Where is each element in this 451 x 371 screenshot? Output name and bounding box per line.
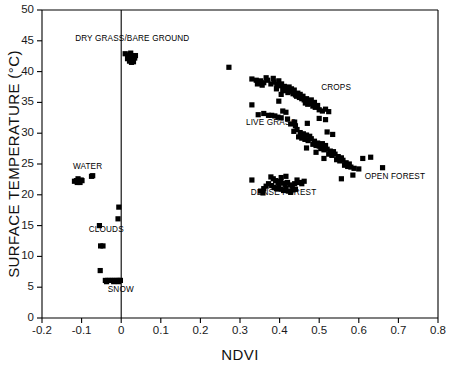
x-tick-label: 0 <box>118 324 124 336</box>
data-point <box>304 145 309 150</box>
data-point <box>325 129 330 134</box>
data-point <box>260 83 265 88</box>
annotation-label: DENSE FOREST <box>251 188 317 197</box>
y-tick-label: 50 <box>21 3 34 15</box>
data-point <box>116 279 121 284</box>
annotation-label: CROPS <box>321 83 351 92</box>
data-point <box>131 59 136 64</box>
data-point <box>279 175 284 180</box>
data-point <box>302 179 307 184</box>
data-point <box>276 99 281 104</box>
y-tick-label: 10 <box>21 249 34 261</box>
y-tick-label: 20 <box>21 188 34 200</box>
data-point <box>98 243 103 248</box>
data-point <box>226 65 231 70</box>
y-tick-label: 45 <box>21 34 34 46</box>
data-point <box>313 150 318 155</box>
data-point <box>280 108 285 113</box>
y-tick-label: 0 <box>28 311 34 323</box>
data-point <box>125 56 130 61</box>
x-tick-label: 0.2 <box>192 324 208 336</box>
data-point <box>356 166 361 171</box>
data-point <box>111 279 116 284</box>
data-point <box>380 165 385 170</box>
y-tick-label: 5 <box>28 280 34 292</box>
data-point <box>309 97 314 102</box>
data-point <box>249 177 254 182</box>
annotation-label: LIVE GRASS <box>246 118 297 127</box>
x-tick-label: 0.3 <box>232 324 248 336</box>
data-point <box>249 102 254 107</box>
x-tick-label: 0.8 <box>430 324 446 336</box>
annotation-label: CLOUDS <box>89 225 124 234</box>
x-tick-label: 0.7 <box>390 324 406 336</box>
y-axis-title: SURFACE TEMPERATURE (°C) <box>5 50 22 278</box>
data-point <box>274 86 279 91</box>
x-tick-label: 0.1 <box>153 324 169 336</box>
x-tick-label: 0.4 <box>272 324 289 336</box>
x-axis-title: NDVI <box>221 346 258 363</box>
data-point <box>256 112 261 117</box>
data-point <box>351 166 356 171</box>
data-point <box>261 111 266 116</box>
annotation-label: OPEN FOREST <box>365 172 425 181</box>
data-point <box>271 76 276 81</box>
series-clouds <box>97 205 122 274</box>
y-tick-label: 25 <box>21 157 34 169</box>
y-axis-ticks: 05101520253035404550 <box>21 3 42 323</box>
data-point <box>116 205 121 210</box>
data-point <box>292 87 297 92</box>
x-tick-label: -0.1 <box>72 324 92 336</box>
y-tick-label: 30 <box>21 126 34 138</box>
chart-figure: 05101520253035404550 -0.2-0.100.10.20.30… <box>0 0 451 371</box>
cluster-annotations: DRY GRASS/BARE GROUNDWATERCLOUDSSNOWCROP… <box>73 34 425 294</box>
annotation-label: SNOW <box>108 285 134 294</box>
series-water <box>72 173 95 185</box>
data-point <box>264 75 269 80</box>
data-point <box>75 180 80 185</box>
data-point <box>279 92 284 97</box>
x-tick-label: 0.6 <box>351 324 367 336</box>
data-point <box>360 156 365 161</box>
data-point <box>98 268 103 273</box>
data-point <box>79 178 84 183</box>
x-tick-label: 0.5 <box>311 324 327 336</box>
data-point <box>330 132 335 137</box>
annotation-label: DRY GRASS/BARE GROUND <box>75 34 189 43</box>
data-point <box>323 117 328 122</box>
data-point <box>339 176 344 181</box>
y-tick-label: 15 <box>21 219 34 231</box>
series-crops <box>226 65 331 115</box>
data-point <box>255 81 260 86</box>
y-tick-label: 35 <box>21 95 34 107</box>
annotation-label: WATER <box>73 162 102 171</box>
scatter-plot-svg: 05101520253035404550 -0.2-0.100.10.20.30… <box>0 0 451 371</box>
data-point <box>326 109 331 114</box>
data-point <box>283 174 288 179</box>
data-point <box>368 155 373 160</box>
series-snow <box>103 278 123 284</box>
data-point <box>133 53 138 58</box>
x-axis-ticks: -0.2-0.100.10.20.30.40.50.60.70.8 <box>32 318 446 336</box>
data-point <box>305 121 310 126</box>
data-point <box>104 279 109 284</box>
y-tick-label: 40 <box>21 65 34 77</box>
data-point <box>300 94 305 99</box>
data-point <box>128 51 133 56</box>
data-point <box>115 216 120 221</box>
series-dry-grass-bare-ground <box>123 51 138 65</box>
data-point <box>321 156 326 161</box>
data-point <box>317 116 322 121</box>
x-tick-label: -0.2 <box>32 324 52 336</box>
data-point <box>90 173 95 178</box>
data-point <box>350 172 355 177</box>
